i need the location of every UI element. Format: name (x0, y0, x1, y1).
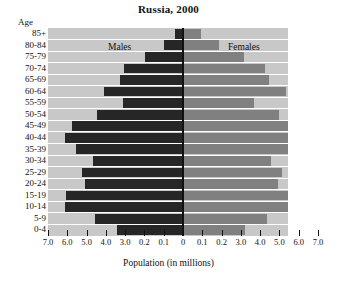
pyramid-row (48, 178, 288, 190)
x-axis-tick (164, 230, 165, 236)
bar-male (76, 144, 183, 154)
series-label-males: Males (108, 42, 131, 52)
x-axis-tick (202, 230, 203, 236)
x-axis-tick-label: 0.1 (158, 237, 169, 247)
age-tick-label: 40-44 (25, 132, 46, 144)
x-axis-tick (241, 230, 242, 236)
bar-female (183, 110, 279, 120)
age-tick-label: 65-69 (25, 74, 46, 86)
age-tick-label: 30-34 (25, 155, 46, 167)
x-axis-tick (318, 230, 319, 236)
pyramid-row (48, 167, 288, 179)
age-tick-label: 15-19 (25, 190, 46, 202)
bar-female (183, 214, 267, 224)
bar-female (183, 225, 245, 235)
age-tick-label: 35-39 (25, 144, 46, 156)
bar-female (183, 191, 288, 201)
y-axis-title: Age (18, 17, 33, 27)
bar-female (183, 87, 286, 97)
bar-female (183, 29, 201, 39)
bar-female (183, 168, 282, 178)
bar-male (120, 75, 183, 85)
bar-female (183, 179, 278, 189)
bar-male (104, 87, 183, 97)
bar-female (183, 156, 271, 166)
bar-female (183, 40, 219, 50)
pyramid-row (48, 132, 288, 144)
x-axis-tick-label: 7.0 (313, 237, 324, 247)
x-axis-tick-label: 3.0 (236, 237, 247, 247)
age-tick-label: 20-24 (25, 178, 46, 190)
pyramid-row (48, 97, 288, 109)
pyramid-row (48, 144, 288, 156)
bar-female (183, 202, 288, 212)
series-label-females: Females (228, 42, 260, 52)
bar-male (95, 214, 183, 224)
pyramid-row (48, 74, 288, 86)
x-axis-tick (87, 230, 88, 236)
plot-area: Males Females (48, 28, 288, 236)
pyramid-row (48, 109, 288, 121)
chart-title: Russia, 2000 (0, 3, 337, 15)
pyramid-row (48, 213, 288, 225)
age-tick-label: 70-74 (25, 63, 46, 75)
bar-male (72, 121, 183, 131)
x-axis-title: Population (in millions) (0, 258, 337, 268)
bar-female (183, 121, 288, 131)
x-axis-tick-label: 0.1 (197, 237, 208, 247)
age-tick-label: 5-9 (34, 213, 46, 225)
x-axis-tick-label: 0.2 (139, 237, 150, 247)
age-tick-label: 50-54 (25, 109, 46, 121)
age-tick-label: 0-4 (34, 224, 46, 236)
x-axis-tick-label: 4.0 (101, 237, 112, 247)
bar-male (145, 52, 183, 62)
age-tick-label: 55-59 (25, 97, 46, 109)
age-tick-label: 80-84 (25, 40, 46, 52)
y-axis-tick-labels: 85+80-8475-7970-7465-6960-6455-5950-5445… (2, 28, 46, 236)
x-axis-tick-label: 7.0 (43, 237, 54, 247)
pyramid-row (48, 28, 288, 40)
x-axis-tick (106, 230, 107, 236)
x-axis-tick-label: 6.0 (62, 237, 73, 247)
x-axis-tick (144, 230, 145, 236)
bar-male (65, 202, 183, 212)
bar-male (66, 191, 183, 201)
bar-female (183, 52, 244, 62)
pyramid-row (48, 120, 288, 132)
x-axis-tick (279, 230, 280, 236)
age-tick-label: 75-79 (25, 51, 46, 63)
bar-male (117, 225, 183, 235)
pyramid-row (48, 224, 288, 236)
bar-male (164, 40, 183, 50)
age-tick-label: 45-49 (25, 120, 46, 132)
center-axis-line (182, 28, 183, 236)
bar-male (123, 98, 183, 108)
x-axis-tick (260, 230, 261, 236)
age-tick-label: 10-14 (25, 201, 46, 213)
pyramid-row (48, 201, 288, 213)
bar-male (97, 110, 183, 120)
x-axis-tick (222, 230, 223, 236)
bar-female (183, 98, 254, 108)
bar-female (183, 75, 269, 85)
bar-male (65, 133, 183, 143)
x-axis-tick-label: 0.2 (216, 237, 227, 247)
bar-female (183, 144, 288, 154)
x-axis-tick (299, 230, 300, 236)
bar-male (82, 168, 183, 178)
x-axis-tick-label: 4.0 (255, 237, 266, 247)
x-axis-tick (67, 230, 68, 236)
x-axis-tick (125, 230, 126, 236)
pyramid-row (48, 63, 288, 75)
x-axis-tick-label: 3.0 (120, 237, 131, 247)
pyramid-row (48, 86, 288, 98)
x-axis-tick (183, 230, 184, 236)
bar-female (183, 133, 288, 143)
x-axis-tick-label: 0 (181, 237, 185, 247)
pyramid-row (48, 51, 288, 63)
age-tick-label: 25-29 (25, 167, 46, 179)
bar-male (85, 179, 183, 189)
pyramid-row (48, 155, 288, 167)
pyramid-row (48, 190, 288, 202)
age-tick-label: 85+ (32, 28, 46, 40)
